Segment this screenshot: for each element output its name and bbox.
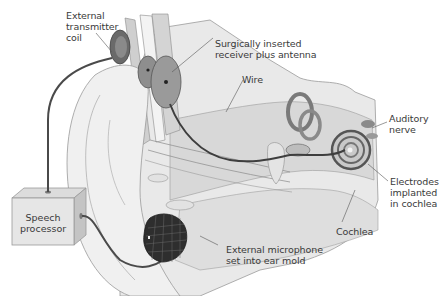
label-wire: Wire (242, 74, 263, 85)
label-cochlea: Cochlea (336, 226, 373, 237)
label-transmitter-coil: External transmitter coil (66, 10, 118, 43)
external-microphone (144, 213, 187, 262)
label-electrodes: Electrodes implanted in cochlea (390, 176, 439, 209)
label-receiver-antenna: Surgically inserted receiver plus antenn… (215, 38, 316, 60)
label-auditory-nerve: Auditory nerve (389, 113, 428, 135)
label-speech-processor: Speech processor (14, 212, 72, 234)
label-external-microphone: External microphone set into ear mold (226, 244, 323, 266)
cochlear-implant-diagram: External transmitter coil Surgically ins… (0, 0, 439, 296)
